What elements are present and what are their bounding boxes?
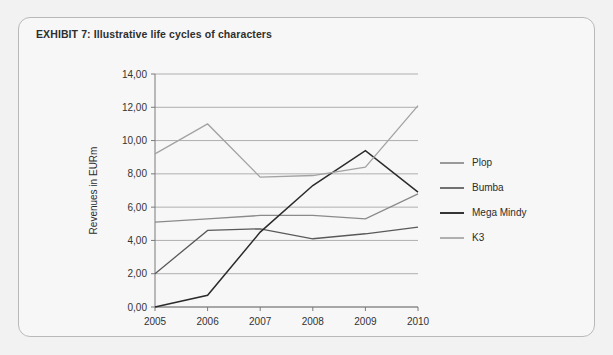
y-tick-label: 6,00 [128, 202, 148, 213]
x-tick-label: 2008 [302, 316, 325, 327]
exhibit-title: EXHIBIT 7: Illustrative life cycles of c… [36, 28, 272, 40]
y-axis-title: Revenues in EURm [88, 147, 99, 235]
gridlines-group [155, 74, 418, 307]
line-chart: 0,002,004,006,008,0010,0012,0014,00 2005… [19, 44, 596, 337]
legend-label-mega-mindy: Mega Mindy [472, 207, 526, 218]
y-axis-ticks: 0,002,004,006,008,0010,0012,0014,00 [122, 69, 155, 313]
x-axis-ticks: 200520062007200820092010 [144, 307, 430, 327]
legend-label-bumba: Bumba [472, 182, 504, 193]
chart-region: 0,002,004,006,008,0010,0012,0014,00 2005… [19, 44, 596, 337]
legend-label-plop: Plop [472, 157, 492, 168]
y-tick-label: 12,00 [122, 102, 147, 113]
data-series-group [155, 106, 418, 307]
y-tick-label: 0,00 [128, 302, 148, 313]
y-tick-label: 8,00 [128, 168, 148, 179]
x-tick-label: 2005 [144, 316, 167, 327]
series-line-k3 [155, 106, 418, 178]
legend-label-k3: K3 [472, 232, 485, 243]
x-tick-label: 2007 [249, 316, 272, 327]
x-tick-label: 2009 [354, 316, 377, 327]
y-tick-label: 14,00 [122, 69, 147, 80]
series-line-bumba [155, 227, 418, 274]
x-tick-label: 2006 [196, 316, 219, 327]
y-tick-label: 4,00 [128, 235, 148, 246]
exhibit-card: EXHIBIT 7: Illustrative life cycles of c… [18, 17, 595, 337]
chart-legend: PlopBumbaMega MindyK3 [440, 157, 526, 243]
axes-group [155, 74, 418, 307]
x-tick-label: 2010 [407, 316, 430, 327]
y-tick-label: 2,00 [128, 268, 148, 279]
y-tick-label: 10,00 [122, 135, 147, 146]
